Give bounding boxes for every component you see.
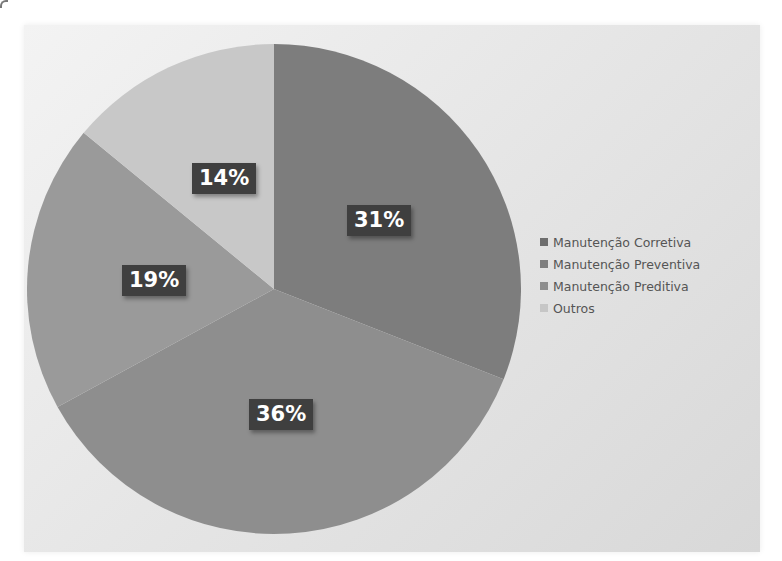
legend-item: Manutenção Preventiva	[540, 253, 700, 275]
legend-item: Manutenção Preditiva	[540, 275, 700, 297]
legend: Manutenção Corretiva Manutenção Preventi…	[540, 231, 700, 319]
legend-label: Manutenção Preditiva	[553, 279, 689, 294]
legend-label: Manutenção Preventiva	[553, 257, 700, 272]
data-label-preditiva: 19%	[122, 265, 186, 296]
legend-item: Outros	[540, 297, 700, 319]
legend-swatch-icon	[540, 282, 548, 290]
legend-swatch-icon	[540, 304, 548, 312]
chart-area: 31% 36% 19% 14% Manutenção Corretiva Man…	[24, 25, 760, 552]
legend-swatch-icon	[540, 260, 548, 268]
legend-label: Manutenção Corretiva	[553, 235, 691, 250]
data-label-corretiva: 31%	[347, 205, 411, 236]
data-label-preventiva: 36%	[249, 399, 313, 430]
data-label-outros: 14%	[192, 163, 256, 194]
legend-label: Outros	[553, 301, 595, 316]
corner-mark	[0, 0, 8, 8]
legend-item: Manutenção Corretiva	[540, 231, 700, 253]
legend-swatch-icon	[540, 238, 548, 246]
